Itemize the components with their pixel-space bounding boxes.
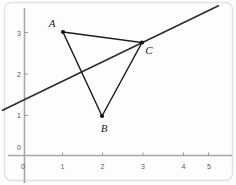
vertex-c-point bbox=[140, 40, 144, 44]
vertex-b-point bbox=[100, 114, 104, 118]
vertex-a-point bbox=[61, 30, 65, 34]
vertex-b-label: B bbox=[101, 122, 108, 134]
plot-canvas: 0 1 2 3 4 5 0 1 2 3 A C B bbox=[0, 0, 236, 185]
y-tick-label-1: 1 bbox=[17, 112, 21, 119]
x-tick-label-1: 1 bbox=[61, 163, 65, 170]
geometry-plot-figure: 0 1 2 3 4 5 0 1 2 3 A C B bbox=[0, 0, 236, 185]
x-tick-label-3: 3 bbox=[141, 163, 145, 170]
vertex-a-label: A bbox=[48, 17, 56, 29]
plot-frame bbox=[5, 3, 233, 181]
vertex-c-label: C bbox=[145, 44, 153, 56]
y-tick-label-3: 3 bbox=[17, 30, 21, 37]
x-tick-label-0: 0 bbox=[21, 163, 25, 170]
x-tick-label-5: 5 bbox=[207, 163, 211, 170]
y-tick-label-0: 0 bbox=[17, 144, 21, 151]
x-tick-label-2: 2 bbox=[101, 163, 105, 170]
x-tick-label-4: 4 bbox=[182, 163, 186, 170]
y-tick-label-2: 2 bbox=[17, 71, 21, 78]
